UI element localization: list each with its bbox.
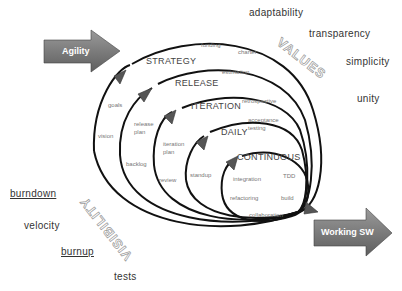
svg-text:VALUES: VALUES <box>274 35 329 82</box>
practice-retrospective: retrospective <box>242 98 276 104</box>
practice-charter: charter <box>238 49 257 55</box>
value-simplicity: simplicity <box>346 56 390 67</box>
practice-refactoring: refactoring <box>230 195 258 201</box>
practice-iteration-plan: iteration plan <box>163 140 189 156</box>
practice-tdd: TDD <box>283 173 295 179</box>
value-unity: unity <box>357 93 380 104</box>
level-daily: DAILY <box>221 127 248 137</box>
practice-funding: funding <box>201 42 221 48</box>
values-ring-label: VALUES <box>274 35 329 82</box>
visibility-velocity: velocity <box>24 220 60 231</box>
level-strategy: STRATEGY <box>146 56 196 66</box>
practice-release-plan: release plan <box>134 120 158 136</box>
visibility-tests: tests <box>114 271 137 282</box>
practice-standup: standup <box>190 172 211 178</box>
visibility-burnup: burnup <box>61 246 94 257</box>
release-arrowhead <box>138 88 152 102</box>
practice-build: build <box>281 195 294 201</box>
practice-vision: vision <box>98 133 113 139</box>
level-continuous: CONTINUOUS <box>237 152 301 162</box>
practice-acceptance-testing: acceptance testing <box>248 116 282 132</box>
visibility-burndown: burndown <box>10 188 56 199</box>
practice-goals: goals <box>108 102 122 108</box>
value-adaptability: adaptability <box>249 7 303 18</box>
practice-review: review <box>159 177 176 183</box>
practice-estimation: estimation <box>222 69 249 75</box>
working-sw-label: Working SW <box>321 227 374 237</box>
value-transparency: transparency <box>309 28 370 39</box>
practice-backlog: backlog <box>126 161 147 167</box>
level-release: RELEASE <box>175 78 219 88</box>
practice-integration: integration <box>233 176 261 182</box>
level-iteration: ITERATION <box>191 101 241 111</box>
agility-label: Agility <box>62 46 90 56</box>
practice-collaboration: collaboration <box>249 212 283 218</box>
